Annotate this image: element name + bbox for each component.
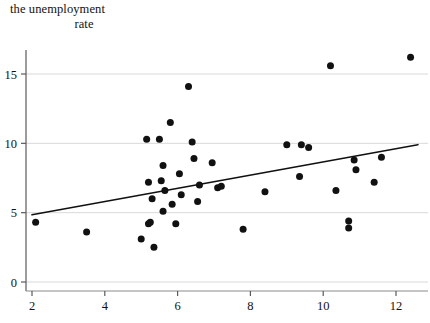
data-point xyxy=(351,156,358,163)
data-point xyxy=(169,201,176,208)
data-point xyxy=(190,155,197,162)
data-point xyxy=(218,183,225,190)
data-point xyxy=(143,136,150,143)
data-point xyxy=(83,229,90,236)
data-point xyxy=(240,226,247,233)
data-points-group xyxy=(32,54,414,251)
data-point xyxy=(327,62,334,69)
data-point xyxy=(147,219,154,226)
data-point xyxy=(345,217,352,224)
tick-marks-group xyxy=(21,74,396,296)
y-tick-label-5: 5 xyxy=(11,206,17,220)
x-tick-label-8: 8 xyxy=(247,299,253,313)
data-point xyxy=(296,173,303,180)
tick-labels-group: 05101524681012 xyxy=(5,68,403,314)
x-tick-label-6: 6 xyxy=(174,299,180,313)
x-tick-label-12: 12 xyxy=(390,299,403,313)
data-point xyxy=(194,198,201,205)
data-point xyxy=(261,188,268,195)
trendline xyxy=(32,145,418,215)
y-tick-label-10: 10 xyxy=(5,137,18,151)
data-point xyxy=(160,162,167,169)
data-point xyxy=(371,179,378,186)
data-point xyxy=(378,154,385,161)
x-tick-label-10: 10 xyxy=(317,299,330,313)
data-point xyxy=(156,136,163,143)
data-point xyxy=(172,220,179,227)
data-point xyxy=(150,244,157,251)
data-point xyxy=(305,144,312,151)
data-point xyxy=(189,138,196,145)
data-point xyxy=(158,177,165,184)
data-point xyxy=(138,236,145,243)
trendline-segment xyxy=(32,145,418,215)
y-tick-label-15: 15 xyxy=(5,68,18,82)
data-point xyxy=(145,179,152,186)
data-point xyxy=(209,159,216,166)
scatter-plot-figure: the unemployment rate 05101524681012 xyxy=(0,0,430,323)
data-point xyxy=(283,141,290,148)
data-point xyxy=(32,219,39,226)
y-tick-label-0: 0 xyxy=(11,276,17,290)
x-tick-label-2: 2 xyxy=(29,299,35,313)
data-point xyxy=(178,191,185,198)
data-point xyxy=(185,83,192,90)
data-point xyxy=(345,224,352,231)
data-point xyxy=(176,170,183,177)
axes-group xyxy=(26,50,428,291)
plot-canvas: 05101524681012 xyxy=(0,0,430,323)
data-point xyxy=(161,187,168,194)
data-point xyxy=(160,208,167,215)
data-point xyxy=(149,195,156,202)
data-point xyxy=(332,187,339,194)
data-point xyxy=(298,141,305,148)
data-point xyxy=(407,54,414,61)
data-point xyxy=(196,181,203,188)
data-point xyxy=(352,166,359,173)
gridlines-group xyxy=(26,74,428,282)
data-point xyxy=(167,119,174,126)
x-tick-label-4: 4 xyxy=(102,299,109,313)
